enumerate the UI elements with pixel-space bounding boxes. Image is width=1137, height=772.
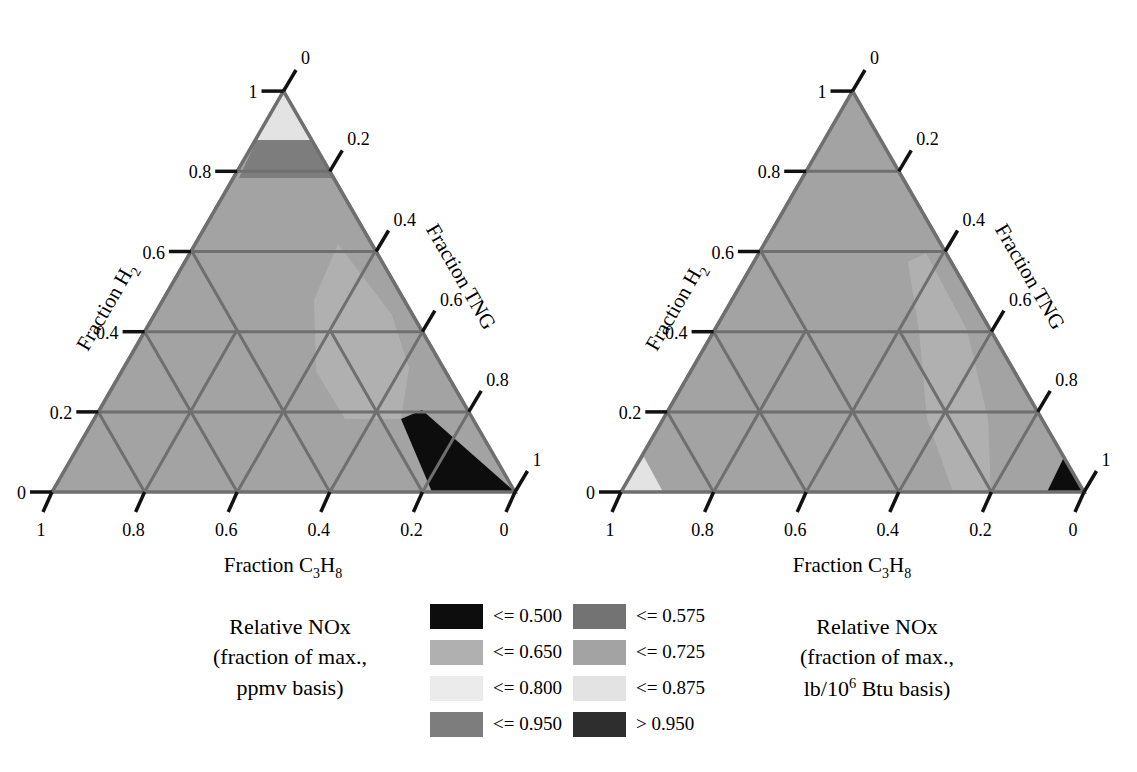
legend-item: <= 0.500 (430, 604, 573, 629)
bottom-axis-title-sub2: 8 (904, 566, 911, 581)
bottom-tick-4: 0.2 (969, 520, 992, 540)
legend-item: <= 0.725 (573, 640, 716, 665)
legend-swatch-icon (430, 604, 483, 629)
bottom-tick-1: 0.8 (122, 520, 145, 540)
bottom-axis-title-pre: Fraction C (224, 553, 313, 577)
legend-label: <= 0.500 (493, 605, 562, 627)
right-tick-4: 0.8 (1055, 370, 1078, 390)
bottom-axis-title: Fraction C3H8 (224, 553, 342, 581)
legend-label: <= 0.800 (493, 677, 562, 699)
bottom-axis-title-mid: H (320, 553, 335, 577)
legend-label: <= 0.725 (636, 641, 705, 663)
right-tick-2: 0.4 (394, 210, 417, 230)
legend-item: <= 0.875 (573, 676, 716, 701)
figure-root: 1 0.8 0.6 0.4 0.2 0 0 0.2 0.4 0.6 0.8 1 … (0, 0, 1137, 772)
ternary-panel-lb-btu: 1 0.8 0.6 0.4 0.2 0 0 0.2 0.4 0.6 0.8 1 … (569, 0, 1137, 600)
caption-line-3: ppmv basis) (155, 673, 425, 703)
left-tick-0: 0 (17, 483, 26, 503)
legend-item: > 0.950 (573, 712, 716, 737)
bottom-tick-1: 0.8 (691, 520, 714, 540)
caption-line-3: lb/106 Btu basis) (742, 673, 1012, 705)
right-tick-2: 0.4 (963, 210, 986, 230)
bottom-tick-3: 0.4 (308, 520, 331, 540)
right-tick-5: 1 (1102, 450, 1111, 470)
ternary-panel-ppmv: 1 0.8 0.6 0.4 0.2 0 0 0.2 0.4 0.6 0.8 1 … (0, 0, 568, 600)
legend-swatch-icon (573, 640, 626, 665)
bottom-tick-4: 0.2 (400, 520, 423, 540)
right-tick-1: 0.2 (347, 129, 370, 149)
legend-item: <= 0.950 (430, 712, 573, 737)
bottom-axis-title-pre: Fraction C (793, 553, 882, 577)
left-tick-5: 1 (818, 82, 827, 102)
contour-legend: <= 0.500 <= 0.575 <= 0.650 <= 0.725 <= 0… (430, 598, 716, 742)
legend-item: <= 0.800 (430, 676, 573, 701)
bottom-tick-0: 1 (606, 520, 615, 540)
bottom-tick-0: 1 (37, 520, 46, 540)
region-0875 (257, 91, 312, 140)
bottom-axis-title-sub1: 3 (313, 566, 320, 581)
legend-swatch-icon (430, 676, 483, 701)
left-tick-5: 1 (249, 82, 258, 102)
caption-ppmv: Relative NOx (fraction of max., ppmv bas… (155, 612, 425, 703)
caption-line-1: Relative NOx (155, 612, 425, 642)
caption-line-3-base: lb/10 (804, 676, 849, 701)
legend-label: <= 0.950 (493, 713, 562, 735)
right-tick-4: 0.8 (486, 370, 509, 390)
legend-item: <= 0.575 (573, 604, 716, 629)
legend-swatch-icon (430, 640, 483, 665)
legend-label: <= 0.575 (636, 605, 705, 627)
bottom-axis-title-mid: H (889, 553, 904, 577)
right-tick-0: 0 (870, 48, 879, 68)
bottom-tick-5: 0 (1069, 520, 1078, 540)
legend-label: <= 0.875 (636, 677, 705, 699)
legend-label: > 0.950 (636, 713, 694, 735)
right-tick-5: 1 (533, 450, 542, 470)
ternary-svg-lb-btu: 1 0.8 0.6 0.4 0.2 0 0 0.2 0.4 0.6 0.8 1 … (569, 0, 1137, 600)
bottom-tick-labels: 1 0.8 0.6 0.4 0.2 0 (606, 520, 1078, 540)
left-tick-0: 0 (586, 483, 595, 503)
caption-line-2: (fraction of max., (742, 642, 1012, 672)
bottom-axis-title-sub2: 8 (335, 566, 342, 581)
legend-label: <= 0.650 (493, 641, 562, 663)
bottom-tick-2: 0.6 (215, 520, 238, 540)
left-tick-4: 0.8 (758, 162, 781, 182)
bottom-axis-title: Fraction C3H8 (793, 553, 911, 581)
left-tick-4: 0.8 (189, 162, 212, 182)
caption-lb-btu: Relative NOx (fraction of max., lb/106 B… (742, 612, 1012, 704)
caption-line-3-tail: Btu basis) (856, 676, 950, 701)
left-tick-1: 0.2 (50, 403, 73, 423)
bottom-axis-title-sub1: 3 (882, 566, 889, 581)
legend-swatch-icon (573, 676, 626, 701)
bottom-tick-2: 0.6 (784, 520, 807, 540)
ternary-svg-ppmv: 1 0.8 0.6 0.4 0.2 0 0 0.2 0.4 0.6 0.8 1 … (0, 0, 568, 600)
caption-line-2: (fraction of max., (155, 642, 425, 672)
legend-swatch-icon (573, 712, 626, 737)
left-tick-1: 0.2 (619, 403, 642, 423)
left-tick-3: 0.6 (711, 243, 734, 263)
left-tick-3: 0.6 (142, 243, 165, 263)
legend-swatch-icon (430, 712, 483, 737)
bottom-tick-3: 0.4 (877, 520, 900, 540)
caption-line-1: Relative NOx (742, 612, 1012, 642)
right-tick-0: 0 (301, 48, 310, 68)
bottom-tick-labels: 1 0.8 0.6 0.4 0.2 0 (37, 520, 509, 540)
legend-item: <= 0.650 (430, 640, 573, 665)
legend-swatch-icon (573, 604, 626, 629)
right-tick-1: 0.2 (916, 129, 939, 149)
bottom-tick-5: 0 (500, 520, 509, 540)
